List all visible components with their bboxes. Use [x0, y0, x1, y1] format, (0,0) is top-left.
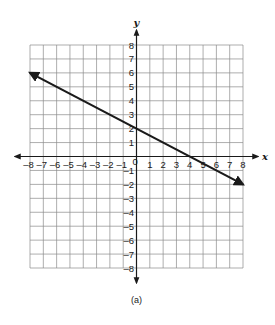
y-tick-label: 4 [129, 95, 134, 106]
x-tick-label: –4 [76, 159, 87, 170]
y-tick-label: –8 [123, 263, 134, 274]
x-tick-label: 1 [147, 159, 152, 170]
x-tick-label: 6 [214, 159, 219, 170]
x-tick-label: 8 [240, 159, 245, 170]
y-tick-label: 8 [129, 40, 134, 51]
y-tick-label: 5 [129, 81, 134, 92]
x-tick-label: –5 [63, 159, 74, 170]
x-tick-label: 4 [187, 159, 192, 170]
y-tick-label: 3 [129, 109, 134, 120]
figure-caption: (a) [131, 295, 142, 305]
x-tick-label: 3 [174, 159, 179, 170]
y-tick-label: –4 [123, 207, 134, 218]
x-tick-label: –6 [50, 159, 61, 170]
x-tick-label: 2 [160, 159, 165, 170]
y-tick-label: 6 [129, 67, 134, 78]
y-tick-label: –1 [123, 165, 134, 176]
coordinate-graph: –8–7–6–5–4–3–2–112345678–8–7–6–5–4–3–2–1… [0, 0, 275, 325]
y-tick-label: –6 [123, 235, 134, 246]
y-tick-label: 7 [129, 53, 134, 64]
y-tick-label: –7 [123, 249, 134, 260]
x-tick-label: –3 [90, 159, 101, 170]
y-tick-label: 1 [129, 137, 134, 148]
x-tick-label: 7 [227, 159, 232, 170]
y-tick-label: –3 [123, 193, 134, 204]
y-tick-label: –2 [123, 179, 134, 190]
x-tick-label: –7 [37, 159, 48, 170]
y-axis-label: y [133, 17, 141, 28]
y-tick-label: –5 [123, 221, 134, 232]
x-tick-label: –2 [103, 159, 114, 170]
x-axis-label: x [261, 151, 269, 162]
origin-label: 0 [133, 156, 138, 167]
x-tick-label: –8 [23, 159, 34, 170]
